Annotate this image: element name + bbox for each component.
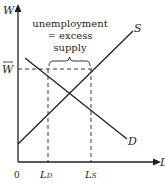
x-axis-label: L	[159, 156, 165, 169]
wage-label: W	[2, 63, 15, 76]
excess-supply-brace	[49, 57, 90, 66]
ls-label: LS	[84, 169, 97, 180]
annotation-line-3: supply	[53, 42, 87, 53]
annotation-line-2: = excess	[48, 30, 93, 41]
demand-label: D	[127, 135, 137, 148]
y-axis-arrow-icon	[15, 4, 22, 12]
supply-label: S	[134, 22, 142, 35]
annotation-line-1: unemployment	[32, 18, 107, 29]
origin-label: 0	[14, 170, 20, 180]
labor-market-diagram: unemployment = excess supply W L 0 W S D…	[0, 0, 165, 183]
demand-curve	[25, 58, 127, 139]
y-axis-label: W	[3, 4, 16, 17]
ld-label: LD	[39, 169, 53, 180]
